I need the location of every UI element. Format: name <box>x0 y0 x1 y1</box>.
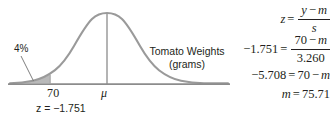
tail-percent-label: 4% <box>14 44 28 54</box>
eq4-lhs: m <box>282 87 291 102</box>
eq1-numerator-var2: m <box>318 3 327 17</box>
eq3-rhs-op: − <box>310 68 321 83</box>
normal-curve-diagram: 4% 70 μ z = −1.751 Tomato Weights (grams… <box>0 0 238 118</box>
equation-z-definition: z = y−m s <box>280 3 330 36</box>
eq3-rhs-num: 70 <box>297 68 310 83</box>
series-label-line2: (grams) <box>169 58 205 70</box>
equation-block: z = y−m s −1.751 = 70−m 3.260 <box>228 0 333 118</box>
callout-leader-line <box>21 56 34 81</box>
z-score-label: z = −1.751 <box>36 103 86 114</box>
equation-solution: m = 75.71 <box>282 87 330 102</box>
eq1-equals: = <box>285 12 296 27</box>
figure-screenshot: 4% 70 μ z = −1.751 Tomato Weights (grams… <box>0 0 333 118</box>
eq2-numerator-op: − <box>307 33 318 47</box>
eq2-denominator: 3.260 <box>294 50 328 66</box>
eq4-equals: = <box>291 87 302 102</box>
eq4-rhs: 75.71 <box>302 87 330 102</box>
mean-symbol-label: μ <box>101 87 107 99</box>
eq2-lhs: −1.751 <box>243 42 278 57</box>
axis-value-label-70: 70 <box>47 87 60 99</box>
eq2-numerator: 70−m <box>291 33 330 49</box>
eq2-equals: = <box>278 42 289 57</box>
equation-substituted: −1.751 = 70−m 3.260 <box>243 33 330 66</box>
eq3-equals: = <box>286 68 297 83</box>
equation-cross-multiplied: −5.708 = 70 − m <box>251 68 330 83</box>
eq1-numerator-op: − <box>307 3 318 17</box>
eq3-lhs: −5.708 <box>251 68 286 83</box>
eq2-numerator-num: 70 <box>294 33 307 47</box>
eq1-numerator: y−m <box>298 3 330 19</box>
series-label: Tomato Weights (grams) <box>143 45 231 70</box>
eq2-fraction: 70−m 3.260 <box>291 33 330 66</box>
eq3-rhs-var: m <box>321 68 330 83</box>
series-label-line1: Tomato Weights <box>149 45 224 57</box>
eq1-fraction: y−m s <box>298 3 330 36</box>
eq2-numerator-var: m <box>318 33 327 47</box>
